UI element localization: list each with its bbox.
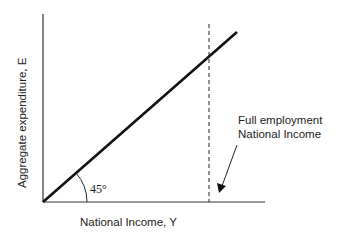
arrow-head-icon [217,183,226,193]
diagram: Aggregate expenditure, E National Income… [0,0,339,237]
annotation-line-1: Full employment [238,114,323,126]
45-degree-line [43,32,237,202]
annotation-line-2: National Income [238,128,321,140]
x-axis-label: National Income, Y [80,216,177,228]
angle-arc [76,173,87,202]
annotation-arrow [222,145,237,186]
angle-label: 45° [90,182,107,196]
y-axis-label: Aggregate expenditure, E [16,57,28,188]
